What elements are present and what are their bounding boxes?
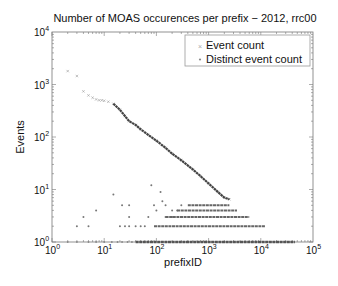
legend-distinct-marker-icon bbox=[199, 58, 201, 60]
legend-distinct-label: Distinct event count bbox=[206, 53, 302, 65]
y-tick-labels: 100101102103104 bbox=[34, 25, 49, 248]
legend: × Event count Distinct event count bbox=[185, 35, 310, 66]
x-tick-label: 102 bbox=[149, 243, 164, 256]
x-tick-label: 101 bbox=[97, 243, 112, 256]
legend-event-count-marker-icon: × bbox=[198, 43, 202, 50]
y-tick-label: 104 bbox=[34, 25, 49, 38]
moas-scatter-chart: Number of MOAS occurences per prefix − 2… bbox=[0, 0, 338, 286]
x-axis-label: prefixID bbox=[164, 256, 202, 268]
distinct-event-count-series bbox=[67, 184, 295, 243]
y-tick-label: 102 bbox=[34, 130, 49, 143]
y-tick-label: 103 bbox=[34, 78, 49, 91]
x-tick-label: 103 bbox=[202, 243, 217, 256]
x-tick-label: 104 bbox=[254, 243, 269, 256]
legend-event-count-label: Event count bbox=[206, 39, 264, 51]
x-tick-label: 105 bbox=[306, 243, 321, 256]
x-tick-label: 100 bbox=[45, 243, 60, 256]
chart-title: Number of MOAS occurences per prefix − 2… bbox=[53, 12, 316, 24]
x-tick-labels: 100101102103104105 bbox=[45, 243, 321, 256]
y-axis-label: Events bbox=[14, 120, 26, 154]
event-count-series bbox=[67, 70, 231, 201]
y-tick-label: 101 bbox=[34, 183, 49, 196]
